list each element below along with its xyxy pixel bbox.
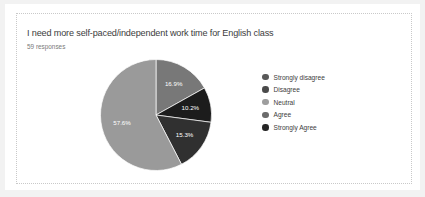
legend-item[interactable]: Disagree (262, 84, 402, 96)
legend-item[interactable]: Neutral (262, 96, 402, 108)
survey-result-card: I need more self-paced/independent work … (16, 13, 412, 184)
pie-slice-label: 15.3% (176, 131, 194, 138)
legend-color-swatch-icon (262, 99, 269, 106)
pie-slice-label: 16.9% (165, 80, 183, 87)
legend-item[interactable]: Agree (262, 109, 402, 121)
legend-color-swatch-icon (262, 124, 269, 131)
legend-color-swatch-icon (262, 112, 269, 119)
document-page: I need more self-paced/independent work … (5, 4, 420, 190)
legend-item[interactable]: Strongly Agree (262, 121, 402, 133)
legend-color-swatch-icon (262, 74, 269, 81)
legend-item-label: Strongly disagree (274, 73, 325, 82)
legend-item-label: Strongly Agree (274, 123, 317, 132)
chart-area: 16.9%10.2%15.3%57.6% Strongly disagreeDi… (17, 54, 413, 182)
legend-item[interactable]: Strongly disagree (262, 71, 402, 83)
pie-chart-svg: 16.9%10.2%15.3%57.6% (100, 59, 212, 171)
screenshot-page: I need more self-paced/independent work … (0, 0, 425, 197)
page-title: I need more self-paced/independent work … (27, 27, 273, 39)
legend-item-label: Disagree (274, 85, 300, 94)
legend-item-label: Agree (274, 110, 292, 119)
pie-slice-label: 57.6% (113, 119, 131, 126)
legend-color-swatch-icon (262, 86, 269, 93)
pie-slice-group (101, 60, 212, 171)
chart-legend: Strongly disagreeDisagreeNeutralAgreeStr… (262, 71, 402, 134)
pie-slice-label: 10.2% (182, 104, 200, 111)
pie-chart: 16.9%10.2%15.3%57.6% (100, 59, 212, 171)
legend-item-label: Neutral (274, 98, 295, 107)
response-count: 59 responses (27, 42, 65, 51)
